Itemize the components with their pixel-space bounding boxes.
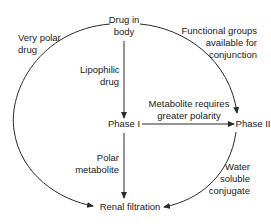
label-very-polar-line2: drug <box>18 44 61 56</box>
node-renal-filtration: Renal filtration <box>95 201 165 213</box>
label-functional-groups: Functional groups available for conjunct… <box>180 25 257 61</box>
node-drug-in-body-line2: body <box>104 26 144 38</box>
label-metabolite-line1: Metabolite requires <box>144 98 234 110</box>
node-drug-in-body: Drug in body <box>104 14 144 38</box>
label-water-line1: Water <box>200 161 250 173</box>
label-functional-line3: conjunction <box>180 49 257 61</box>
label-polar-line2: metabolite <box>72 164 119 176</box>
label-water-soluble: Water soluble conjugate <box>200 161 250 197</box>
label-metabolite-line2: greater polarity <box>144 110 234 122</box>
label-very-polar-line1: Very polar <box>18 32 61 44</box>
node-drug-in-body-line1: Drug in <box>104 14 144 26</box>
label-lipophilic-drug: Lipophilic drug <box>80 64 119 88</box>
label-metabolite-requires: Metabolite requires greater polarity <box>144 98 234 122</box>
label-water-line2: soluble <box>200 173 250 185</box>
label-very-polar-drug: Very polar drug <box>18 32 61 56</box>
label-functional-line1: Functional groups <box>180 25 257 37</box>
label-polar-line1: Polar <box>72 152 119 164</box>
node-phase-1: Phase I <box>105 118 143 130</box>
label-water-line3: conjugate <box>200 185 250 197</box>
node-phase-2: Phase II <box>235 118 271 130</box>
label-functional-line2: available for <box>180 37 257 49</box>
label-lipophilic-line2: drug <box>80 76 119 88</box>
label-polar-metabolite: Polar metabolite <box>72 152 119 176</box>
label-lipophilic-line1: Lipophilic <box>80 64 119 76</box>
